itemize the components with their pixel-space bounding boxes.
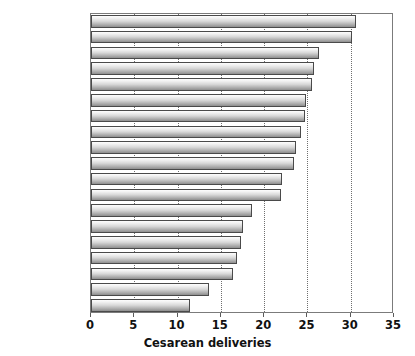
- bar: [91, 62, 314, 75]
- bar: [91, 110, 305, 123]
- bar: [91, 268, 233, 281]
- bar: [91, 31, 352, 44]
- plot-area: [90, 13, 393, 313]
- bar: [91, 126, 301, 139]
- tick-label-25: 25: [286, 318, 326, 332]
- tick-mark-15: [220, 313, 221, 317]
- tick-label-20: 20: [243, 318, 283, 332]
- bar: [91, 47, 319, 60]
- bar: [91, 141, 296, 154]
- tick-mark-30: [350, 313, 351, 317]
- tick-mark-35: [393, 313, 394, 317]
- bars-layer: [91, 14, 392, 312]
- tick-mark-20: [263, 313, 264, 317]
- tick-mark-25: [306, 313, 307, 317]
- tick-label-30: 30: [330, 318, 370, 332]
- bar: [91, 220, 243, 233]
- tick-mark-10: [177, 313, 178, 317]
- bar: [91, 236, 241, 249]
- bar: [91, 157, 294, 170]
- bar: [91, 94, 306, 107]
- tick-label-0: 0: [70, 318, 110, 332]
- tick-mark-5: [133, 313, 134, 317]
- bar: [91, 252, 237, 265]
- tick-label-10: 10: [157, 318, 197, 332]
- bar: [91, 78, 312, 91]
- tick-label-15: 15: [200, 318, 240, 332]
- tick-mark-0: [90, 313, 91, 317]
- bar: [91, 189, 281, 202]
- bar: [91, 15, 356, 28]
- bar: [91, 204, 252, 217]
- bar-chart: ItalyGreeceAustraliaUnited StatesN. Irel…: [0, 0, 415, 356]
- tick-label-35: 35: [373, 318, 413, 332]
- x-axis-title: Cesarean deliveries: [0, 336, 415, 350]
- bar: [91, 283, 209, 296]
- tick-label-5: 5: [113, 318, 153, 332]
- bar: [91, 173, 282, 186]
- bar: [91, 299, 190, 312]
